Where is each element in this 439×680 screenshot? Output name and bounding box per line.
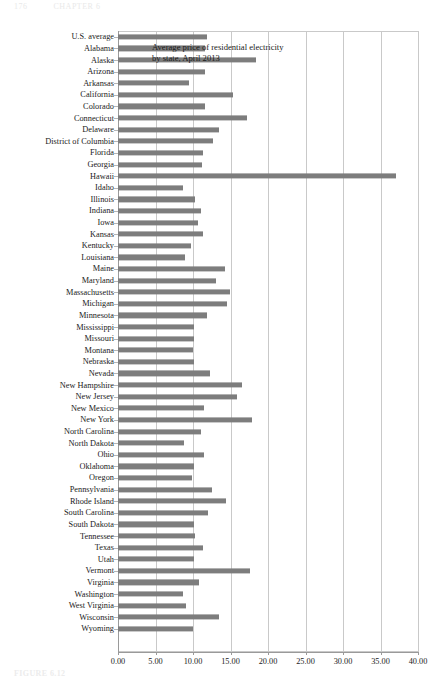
bar-track	[118, 333, 418, 345]
bar-label-iowa: Iowa	[0, 218, 118, 227]
bar-track	[118, 368, 418, 380]
bar-track	[118, 77, 418, 89]
bar	[118, 324, 194, 329]
bar	[118, 208, 201, 213]
bar-track	[118, 344, 418, 356]
bar-label-louisiana: Louisiana	[0, 253, 118, 262]
bar-track	[118, 310, 418, 322]
bar-row: Virginia	[0, 577, 439, 589]
bar-row: New Hampshire	[0, 379, 439, 391]
bar-row: West Virginia	[0, 600, 439, 612]
bar	[118, 313, 207, 318]
x-axis-tick-label: 15.00	[221, 657, 240, 667]
bar-label-kentucky: Kentucky	[0, 241, 118, 250]
page-number: 176	[14, 2, 28, 14]
bar-label-colorado: Colorado	[0, 102, 118, 111]
bar-row: Hawaii	[0, 170, 439, 182]
x-axis-tick-mark	[268, 652, 269, 655]
bar-label-maryland: Maryland	[0, 276, 118, 285]
bar-label-indiana: Indiana	[0, 206, 118, 215]
x-axis-tick-mark	[231, 652, 232, 655]
bar-row: District of Columbia	[0, 135, 439, 147]
bar-label-north-dakota: North Dakota	[0, 439, 118, 448]
bar	[118, 475, 192, 480]
x-axis-tick-mark	[156, 652, 157, 655]
bar	[118, 139, 213, 144]
bar-label-alabama: Alabama	[0, 44, 118, 53]
figure-caption: FIGURE 6.12	[14, 669, 66, 678]
bar-row: Kansas	[0, 228, 439, 240]
bar-label-ohio: Ohio	[0, 450, 118, 459]
bar	[118, 441, 184, 446]
bar	[118, 591, 183, 596]
bar-track	[118, 588, 418, 600]
bar-track	[118, 495, 418, 507]
bar	[118, 499, 226, 504]
bar-track	[118, 600, 418, 612]
bar-row: New Jersey	[0, 391, 439, 403]
bar-row: Nebraska	[0, 356, 439, 368]
bar	[118, 104, 205, 109]
bar-track	[118, 182, 418, 194]
bar-row: New Mexico	[0, 403, 439, 415]
bar	[118, 255, 185, 260]
bar-label-hawaii: Hawaii	[0, 172, 118, 181]
bar-track	[118, 147, 418, 159]
bar-label-arkansas: Arkansas	[0, 79, 118, 88]
bar-track	[118, 472, 418, 484]
x-axis-tick-label: 25.00	[296, 657, 315, 667]
bar-row: Arkansas	[0, 77, 439, 89]
bar	[118, 243, 191, 248]
bar-track	[118, 577, 418, 589]
bar-track	[118, 565, 418, 577]
bar-track	[118, 194, 418, 206]
bar-label-vermont: Vermont	[0, 566, 118, 575]
bar	[118, 545, 203, 550]
bar	[118, 220, 198, 225]
bar-label-california: California	[0, 90, 118, 99]
bar-track	[118, 623, 418, 635]
chart-annotation: Average price of residential electricity…	[152, 42, 292, 64]
bar-track	[118, 240, 418, 252]
bar-track	[118, 66, 418, 78]
bar-track	[118, 519, 418, 531]
bar-track	[118, 124, 418, 136]
bar-row: South Dakota	[0, 519, 439, 531]
bar-label-delaware: Delaware	[0, 125, 118, 134]
bar-track	[118, 205, 418, 217]
bar-row: Pennsylvania	[0, 484, 439, 496]
bar-label-maine: Maine	[0, 264, 118, 273]
bar-row: U.S. average	[0, 31, 439, 43]
bar-track	[118, 101, 418, 113]
bar-label-wisconsin: Wisconsin	[0, 613, 118, 622]
bar-row: Maryland	[0, 275, 439, 287]
bar	[118, 626, 193, 631]
bar-track	[118, 31, 418, 43]
bar-row: Michigan	[0, 298, 439, 310]
bar-track	[118, 159, 418, 171]
bar-track	[118, 135, 418, 147]
bar-track	[118, 217, 418, 229]
bar-track	[118, 542, 418, 554]
bar-track	[118, 437, 418, 449]
bar-track	[118, 170, 418, 182]
bar	[118, 557, 194, 562]
bar-label-massachusetts: Massachusetts	[0, 288, 118, 297]
bar-track	[118, 298, 418, 310]
bar-row: Nevada	[0, 368, 439, 380]
x-axis-tick-label: 40.00	[409, 657, 428, 667]
bar-row: Oregon	[0, 472, 439, 484]
bar	[118, 348, 193, 353]
bar-track	[118, 321, 418, 333]
bar-track	[118, 379, 418, 391]
bar-row: Iowa	[0, 217, 439, 229]
x-axis: 0.005.0010.0015.0020.0025.0030.0035.0040…	[118, 652, 418, 674]
bar-label-minnesota: Minnesota	[0, 311, 118, 320]
bar	[118, 359, 194, 364]
bar-label-rhode-island: Rhode Island	[0, 497, 118, 506]
x-axis-tick-mark	[118, 652, 119, 655]
bar-row: Mississippi	[0, 321, 439, 333]
bar	[118, 115, 247, 120]
x-axis-tick-mark	[306, 652, 307, 655]
bar-track	[118, 414, 418, 426]
